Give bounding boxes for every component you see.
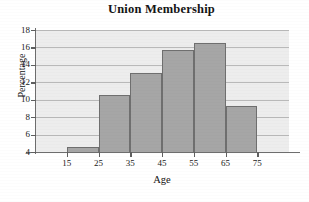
chart-figure: Union Membership 46810121416181525354555…: [0, 0, 309, 202]
bar: [130, 73, 162, 152]
y-axis-label: Percentage: [16, 26, 27, 126]
x-axis-tick-label: 15: [55, 159, 79, 168]
x-axis-tick: [257, 152, 258, 157]
y-axis-tick: [31, 65, 36, 66]
bar: [99, 95, 131, 152]
x-axis-tick-label: 25: [87, 159, 111, 168]
gridline: [35, 47, 289, 48]
y-axis-tick-label: 6: [4, 130, 30, 139]
x-axis-tick: [162, 152, 163, 157]
plot-area: [35, 30, 289, 152]
x-axis-tick-label: 55: [182, 159, 206, 168]
y-axis-tick: [31, 82, 36, 83]
gridline: [35, 30, 289, 31]
x-axis-tick: [130, 152, 131, 157]
y-axis-tick: [31, 117, 36, 118]
y-axis-tick: [31, 30, 36, 31]
x-axis-tick-label: 45: [150, 159, 174, 168]
x-axis-label: Age: [35, 174, 289, 185]
bar: [162, 50, 194, 152]
y-axis-tick: [31, 100, 36, 101]
y-axis-tick: [31, 152, 36, 153]
x-axis-tick: [67, 152, 68, 157]
x-axis-tick-label: 35: [118, 159, 142, 168]
bar: [194, 43, 226, 152]
x-axis-tick: [99, 152, 100, 157]
chart-title: Union Membership: [0, 2, 309, 17]
x-axis-tick-label: 75: [245, 159, 269, 168]
bar: [226, 106, 258, 152]
y-axis-tick: [31, 135, 36, 136]
x-axis-tick: [194, 152, 195, 157]
y-axis-tick: [31, 47, 36, 48]
x-axis-tick: [226, 152, 227, 157]
y-axis-tick-label: 4: [4, 148, 30, 157]
x-axis-tick-label: 65: [214, 159, 238, 168]
